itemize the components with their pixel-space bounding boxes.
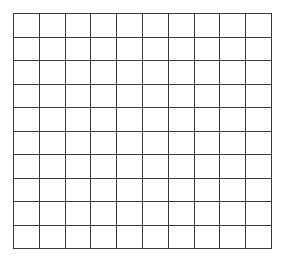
grid-cell — [117, 38, 143, 62]
grid-cell — [66, 202, 92, 226]
grid-cell — [66, 155, 92, 179]
grid-cell — [40, 226, 66, 250]
grid-cell — [40, 132, 66, 156]
grid-cell — [220, 85, 246, 109]
grid-cell — [66, 226, 92, 250]
grid-cell — [66, 85, 92, 109]
grid-cell — [143, 14, 169, 38]
grid-cell — [14, 226, 40, 250]
grid-cell — [14, 179, 40, 203]
grid-cell — [246, 202, 272, 226]
grid-cell — [40, 85, 66, 109]
grid-cell — [117, 14, 143, 38]
grid-cell — [91, 14, 117, 38]
grid-cell — [117, 85, 143, 109]
grid-cell — [195, 85, 221, 109]
grid-cell — [220, 14, 246, 38]
grid-cell — [143, 85, 169, 109]
grid-cell — [246, 226, 272, 250]
grid-cell — [91, 155, 117, 179]
square-grid — [13, 13, 272, 249]
grid-cell — [169, 85, 195, 109]
grid-cell — [14, 38, 40, 62]
grid-cell — [40, 108, 66, 132]
grid-cell — [195, 179, 221, 203]
grid-cell — [91, 108, 117, 132]
grid-cell — [117, 61, 143, 85]
grid-cell — [143, 226, 169, 250]
grid-cell — [246, 179, 272, 203]
grid-cell — [195, 61, 221, 85]
grid-cell — [40, 155, 66, 179]
grid-cell — [143, 179, 169, 203]
grid-cell — [220, 61, 246, 85]
grid-cell — [246, 85, 272, 109]
grid-cell — [40, 202, 66, 226]
grid-cell — [117, 155, 143, 179]
grid-cell — [14, 132, 40, 156]
grid-cell — [246, 108, 272, 132]
grid-cell — [169, 14, 195, 38]
grid-cell — [91, 132, 117, 156]
grid-cell — [195, 155, 221, 179]
grid-cell — [40, 38, 66, 62]
grid-cell — [195, 38, 221, 62]
grid-cell — [91, 226, 117, 250]
grid-cell — [14, 14, 40, 38]
grid-cell — [91, 179, 117, 203]
grid-cell — [195, 202, 221, 226]
grid-cell — [169, 61, 195, 85]
grid-cell — [14, 85, 40, 109]
grid-cell — [14, 108, 40, 132]
grid-cell — [143, 202, 169, 226]
grid-cell — [169, 155, 195, 179]
grid-cell — [91, 202, 117, 226]
grid-cell — [117, 226, 143, 250]
grid-cell — [169, 202, 195, 226]
grid-cell — [220, 202, 246, 226]
grid-cell — [91, 38, 117, 62]
grid-cell — [143, 108, 169, 132]
grid-cell — [246, 38, 272, 62]
grid-cell — [169, 38, 195, 62]
grid-cell — [195, 226, 221, 250]
grid-cell — [246, 132, 272, 156]
grid-cell — [14, 155, 40, 179]
grid-cell — [66, 179, 92, 203]
grid-cell — [14, 202, 40, 226]
grid-cell — [117, 132, 143, 156]
grid-cell — [143, 38, 169, 62]
grid-cell — [220, 38, 246, 62]
grid-cell — [117, 179, 143, 203]
grid-cell — [143, 155, 169, 179]
grid-cell — [117, 108, 143, 132]
grid-cell — [66, 38, 92, 62]
grid-cell — [246, 61, 272, 85]
grid-cell — [40, 61, 66, 85]
grid-cell — [66, 132, 92, 156]
grid-cell — [66, 14, 92, 38]
grid-cell — [169, 132, 195, 156]
grid-cell — [169, 226, 195, 250]
grid-cell — [195, 108, 221, 132]
grid-cell — [220, 132, 246, 156]
grid-cell — [220, 108, 246, 132]
grid-cell — [14, 61, 40, 85]
grid-cell — [195, 132, 221, 156]
grid-cell — [91, 61, 117, 85]
grid-cell — [246, 155, 272, 179]
grid-cell — [40, 14, 66, 38]
grid-cell — [66, 108, 92, 132]
grid-cell — [169, 108, 195, 132]
grid-cell — [220, 179, 246, 203]
grid-cell — [91, 85, 117, 109]
grid-cell — [143, 61, 169, 85]
grid-cell — [117, 202, 143, 226]
grid-cell — [220, 226, 246, 250]
grid-cell — [143, 132, 169, 156]
grid-cell — [66, 61, 92, 85]
grid-cell — [246, 14, 272, 38]
grid-cell — [195, 14, 221, 38]
grid-cell — [169, 179, 195, 203]
grid-cell — [220, 155, 246, 179]
